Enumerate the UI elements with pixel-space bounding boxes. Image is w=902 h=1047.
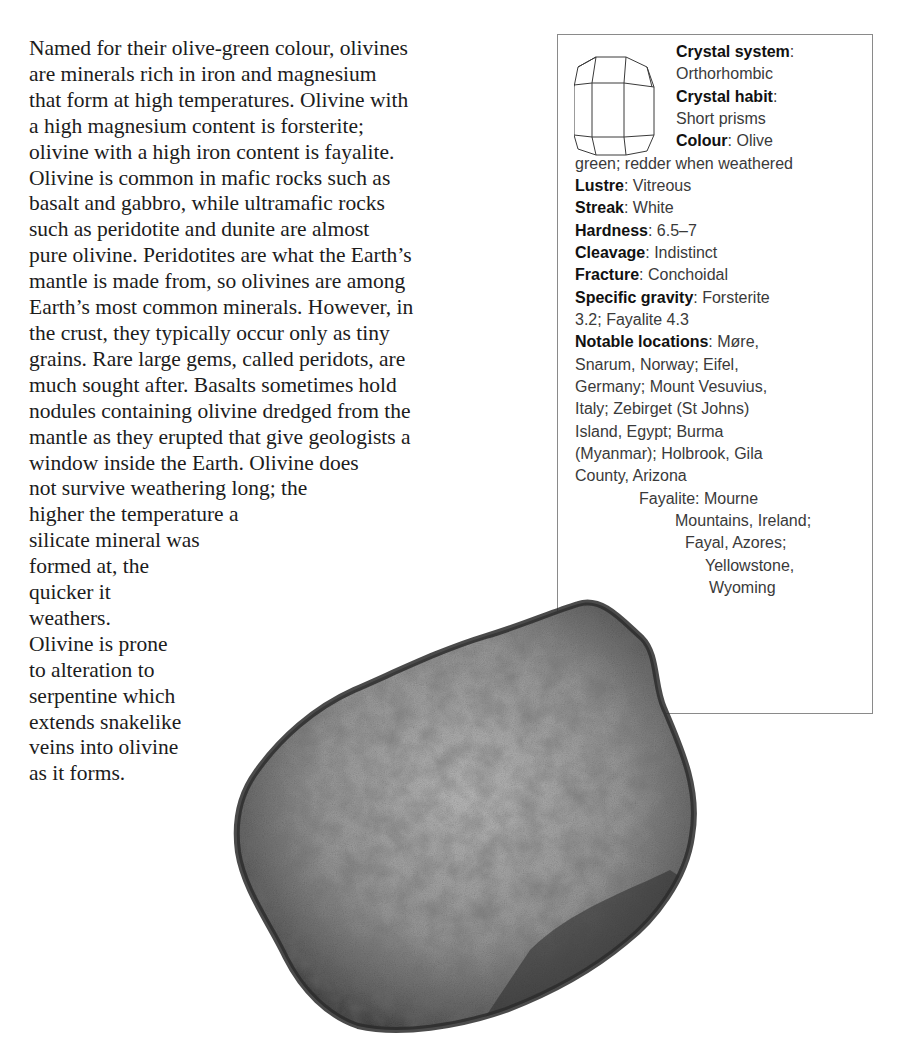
crystal-habit-row: Crystal habit: (676, 86, 777, 108)
property-label: Fracture (575, 266, 639, 283)
streak-row: Streak: White (575, 197, 674, 219)
body-line: formed at, the (29, 554, 413, 580)
body-line: higher the temperature a (29, 502, 413, 528)
property-value: Short prisms (676, 108, 766, 130)
body-line: not survive weathering long; the (29, 476, 413, 502)
fracture-row: Fracture: Conchoidal (575, 264, 728, 286)
gravity-row: Specific gravity: Forsterite (575, 287, 770, 309)
body-line: Olivine is common in mafic rocks such as (29, 166, 413, 192)
property-value: Forsterite (702, 289, 770, 306)
locations-row: Notable locations: Møre, (575, 331, 759, 353)
location-line: Italy; Zebirget (St Johns) (575, 398, 749, 420)
body-line: the crust, they typically occur only as … (29, 321, 413, 347)
property-label: Crystal habit (676, 88, 773, 105)
property-value: Møre, (717, 333, 759, 350)
body-line: a high magnesium content is forsterite; (29, 114, 413, 140)
body-line: mantle as they erupted that give geologi… (29, 425, 413, 451)
body-line: are minerals rich in iron and magnesium (29, 62, 413, 88)
property-value: 3.2; Fayalite 4.3 (575, 309, 689, 331)
body-line: that form at high temperatures. Olivine … (29, 88, 413, 114)
body-line: window inside the Earth. Olivine does (29, 451, 413, 477)
fayalite-line: Fayal, Azores; (685, 532, 786, 554)
property-value: Orthorhombic (676, 63, 773, 85)
body-line: Earth’s most common minerals. However, i… (29, 295, 413, 321)
body-line: such as peridotite and dunite are almost (29, 217, 413, 243)
property-label: Crystal system (676, 43, 790, 60)
property-value: Vitreous (633, 177, 691, 194)
property-label: Specific gravity (575, 289, 693, 306)
body-line: Named for their olive-green colour, oliv… (29, 36, 413, 62)
location-line: (Myanmar); Holbrook, Gila (575, 443, 763, 465)
property-label: Streak (575, 199, 624, 216)
fayalite-line: Fayalite: Mourne (639, 488, 758, 510)
property-value: Olive (736, 132, 772, 149)
crystal-system-row: Crystal system: (676, 41, 794, 63)
crystal-prism-icon (574, 53, 664, 156)
body-line: pure olivine. Peridotites are what the E… (29, 243, 413, 269)
location-line: Island, Egypt; Burma (575, 421, 724, 443)
body-line: olivine with a high iron content is faya… (29, 140, 413, 166)
location-line: County, Arizona (575, 465, 687, 487)
olivine-rock-image (230, 590, 710, 1040)
colour-row: Colour: Olive (676, 130, 773, 152)
body-line: much sought after. Basalts sometimes hol… (29, 373, 413, 399)
fayalite-line: Yellowstone, (705, 555, 794, 577)
fayalite-line: Wyoming (709, 577, 776, 599)
property-value: Conchoidal (648, 266, 728, 283)
location-line: Snarum, Norway; Eifel, (575, 354, 739, 376)
lustre-row: Lustre: Vitreous (575, 175, 691, 197)
body-line: nodules containing olivine dredged from … (29, 399, 413, 425)
property-label: Lustre (575, 177, 624, 194)
property-label: Notable locations (575, 333, 708, 350)
property-value: green; redder when weathered (575, 153, 793, 175)
property-label: Colour (676, 132, 728, 149)
cleavage-row: Cleavage: Indistinct (575, 242, 717, 264)
hardness-row: Hardness: 6.5–7 (575, 220, 697, 242)
body-line: grains. Rare large gems, called peridots… (29, 347, 413, 373)
body-line: mantle is made from, so olivines are amo… (29, 269, 413, 295)
property-label: Cleavage (575, 244, 645, 261)
property-value: Indistinct (654, 244, 717, 261)
body-line: silicate mineral was (29, 528, 413, 554)
location-line: Germany; Mount Vesuvius, (575, 376, 767, 398)
property-value: 6.5–7 (657, 222, 697, 239)
fayalite-line: Mountains, Ireland; (675, 510, 811, 532)
body-line: basalt and gabbro, while ultramafic rock… (29, 191, 413, 217)
property-label: Hardness (575, 222, 648, 239)
property-value: White (633, 199, 674, 216)
